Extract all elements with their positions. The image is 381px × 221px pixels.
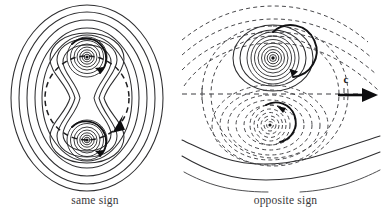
figure-root: same sign [0,0,381,221]
velocity-arrowhead [362,88,378,102]
caption-same-sign: same sign [0,194,190,206]
upper-vortex-same-sign [67,37,107,77]
panel-same-sign: same sign [0,0,190,221]
lower-vortex-opposite [250,102,296,145]
lower-vortex-same-sign [67,120,107,160]
symmetry-axis-opposite [182,88,358,100]
panel-opposite-sign: c opposite sign [190,0,381,221]
same-sign-diagram [0,0,190,195]
velocity-label-c: c [344,73,349,85]
caption-opposite-sign: opposite sign [190,194,381,206]
upper-dashed-streamlines [182,6,378,90]
opposite-sign-diagram: c [190,0,381,195]
